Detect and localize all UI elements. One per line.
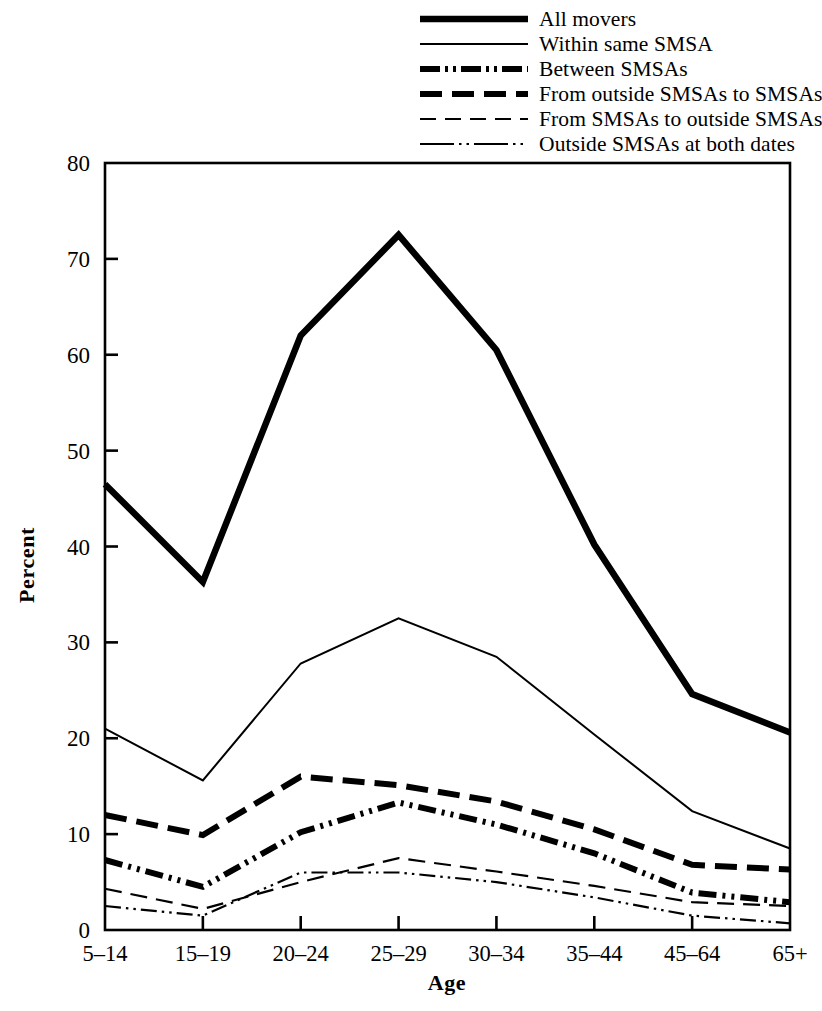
series-line-within-same-smsa	[105, 618, 790, 848]
y-tick-label: 40	[67, 535, 90, 560]
y-tick-label: 80	[67, 151, 90, 176]
y-tick-label: 70	[67, 247, 90, 272]
plot-frame	[105, 163, 790, 930]
series-lines	[105, 235, 790, 923]
y-tick-label: 30	[67, 630, 90, 655]
x-axis-ticks	[203, 916, 692, 930]
y-axis-title: Percent	[14, 527, 39, 603]
y-tick-label: 20	[67, 726, 90, 751]
y-tick-label: 0	[79, 918, 91, 943]
x-category-label: 5–14	[83, 941, 128, 966]
x-category-label: 15–19	[175, 941, 231, 966]
x-category-label: 45–64	[664, 941, 720, 966]
series-line-outside-smsas-at-both-dates	[105, 872, 790, 923]
series-line-from-outside-smsas-to-smsas	[105, 777, 790, 870]
y-axis-ticks: 01020304050607080	[67, 151, 118, 943]
x-axis-category-labels: 5–1415–1920–2425–2930–3435–4445–6465+	[83, 941, 808, 966]
x-category-label: 20–24	[273, 941, 329, 966]
x-category-label: 25–29	[370, 941, 426, 966]
x-axis-title: Age	[428, 970, 466, 995]
series-line-all-movers	[105, 235, 790, 733]
y-tick-label: 50	[67, 439, 90, 464]
axis-frame	[105, 163, 790, 930]
y-tick-label: 10	[67, 822, 90, 847]
x-category-label: 35–44	[566, 941, 622, 966]
y-tick-label: 60	[67, 343, 90, 368]
x-category-label: 65+	[772, 941, 807, 966]
series-line-between-smsas	[105, 802, 790, 902]
x-category-label: 30–34	[468, 941, 524, 966]
